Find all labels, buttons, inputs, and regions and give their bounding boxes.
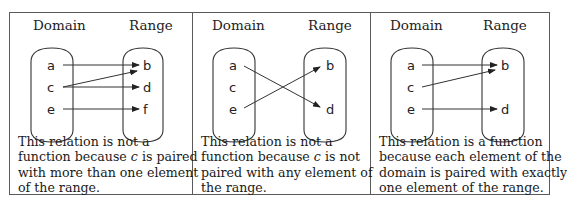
range-element-b: b	[501, 58, 509, 73]
caption: This relation is a function because each…	[379, 134, 567, 196]
range-element-d: d	[326, 102, 334, 117]
range-oval	[304, 48, 346, 142]
domain-element-a: a	[407, 58, 415, 73]
domain-element-a: a	[47, 58, 55, 73]
panel-not-function-multiple: Domain Range a c e b d f This relation i…	[9, 12, 192, 195]
domain-element-e: e	[407, 102, 415, 117]
panel-not-function-unpaired: Domain Range a c e b d This relation is …	[192, 12, 370, 195]
arrow-c-b	[63, 71, 137, 87]
range-element-f: f	[143, 102, 148, 117]
caption: This relation is not a function because …	[201, 134, 373, 196]
range-element-d: d	[143, 80, 151, 95]
domain-element-a: a	[229, 58, 237, 73]
domain-element-c: c	[47, 80, 54, 95]
range-element-d: d	[501, 102, 509, 117]
panel-function: Domain Range a c e b d This relation is …	[370, 12, 551, 195]
domain-element-c: c	[229, 80, 236, 95]
range-element-b: b	[326, 58, 334, 73]
caption: This relation is not a function because …	[18, 134, 198, 196]
domain-element-e: e	[229, 102, 237, 117]
domain-element-e: e	[47, 102, 55, 117]
range-element-b: b	[143, 58, 151, 73]
domain-element-c: c	[407, 80, 414, 95]
